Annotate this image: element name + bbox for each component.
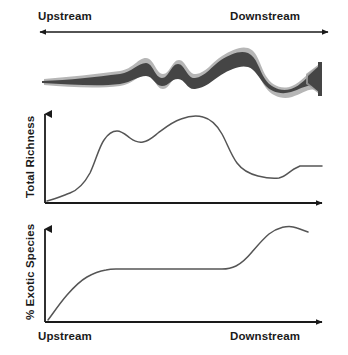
figure-graphics (0, 0, 348, 355)
river-illustration (42, 47, 322, 98)
river-gradient-figure: Upstream Downstream Upstream Downstream … (0, 0, 348, 355)
exotic-curve (48, 226, 308, 320)
exotic-species-panel (45, 226, 322, 322)
richness-axes (45, 114, 322, 203)
total-richness-panel (45, 114, 322, 203)
richness-curve (47, 116, 322, 201)
exotic-axes (45, 229, 322, 322)
